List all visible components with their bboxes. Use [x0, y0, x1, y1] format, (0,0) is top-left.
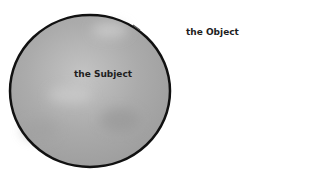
object-label: the Object: [186, 27, 239, 37]
subject-label: the Subject: [74, 69, 132, 79]
